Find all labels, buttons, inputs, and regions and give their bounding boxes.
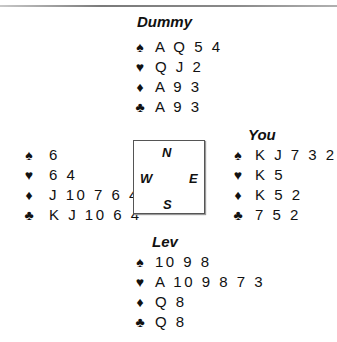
spade-icon: ♠ — [133, 37, 147, 57]
diamond-icon: ♦ — [133, 77, 147, 97]
south-clubs-cards: Q 8 — [155, 312, 187, 332]
diamond-icon: ♦ — [133, 292, 147, 312]
heart-icon: ♥ — [22, 165, 36, 185]
north-player-name: Dummy — [137, 14, 192, 29]
west-spades-cards: 6 — [49, 145, 60, 165]
west-clubs-cards: K J 10 6 4 — [49, 205, 142, 225]
east-clubs-cards: 7 5 2 — [255, 205, 301, 225]
club-icon: ♣ — [231, 205, 245, 225]
east-diamonds-cards: K 5 2 — [255, 185, 303, 205]
east-hearts-cards: K 5 — [255, 165, 285, 185]
club-icon: ♣ — [22, 205, 36, 225]
compass-west: W — [140, 172, 152, 185]
diamond-icon: ♦ — [22, 185, 36, 205]
south-player-name: Lev — [152, 234, 178, 249]
north-hearts-cards: Q J 2 — [155, 57, 203, 77]
heart-icon: ♥ — [133, 57, 147, 77]
compass-north: N — [162, 146, 171, 159]
north-diamonds-cards: A 9 3 — [155, 77, 202, 97]
spade-icon: ♠ — [22, 145, 36, 165]
heart-icon: ♥ — [231, 165, 245, 185]
west-hearts-cards: 6 4 — [49, 165, 77, 185]
diamond-icon: ♦ — [231, 185, 245, 205]
north-clubs-cards: A 9 3 — [155, 97, 202, 117]
compass-east: E — [189, 172, 198, 185]
south-diamonds-cards: Q 8 — [155, 292, 187, 312]
top-divider — [0, 5, 337, 7]
compass-south: S — [163, 198, 172, 211]
spade-icon: ♠ — [231, 145, 245, 165]
south-spades-cards: 10 9 8 — [155, 252, 212, 272]
south-hearts-cards: A 10 9 8 7 3 — [155, 272, 265, 292]
east-player-name: You — [248, 127, 276, 142]
club-icon: ♣ — [133, 312, 147, 332]
compass-box: N W E S — [133, 140, 205, 214]
spade-icon: ♠ — [133, 252, 147, 272]
heart-icon: ♥ — [133, 272, 147, 292]
east-spades-cards: K J 7 3 2 — [255, 145, 337, 165]
club-icon: ♣ — [133, 97, 147, 117]
north-spades-cards: A Q 5 4 — [155, 37, 223, 57]
west-diamonds-cards: J 10 7 6 4 — [49, 185, 140, 205]
